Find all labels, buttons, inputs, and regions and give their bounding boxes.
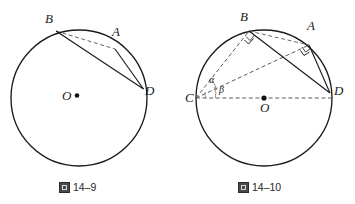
point-label-D-fig10: D bbox=[334, 84, 343, 97]
figure-14-9-group bbox=[11, 30, 147, 166]
point-label-C-fig10: C bbox=[185, 91, 194, 104]
caption-fig9: 14–9 bbox=[59, 182, 96, 193]
chord-AD-fig9 bbox=[115, 49, 144, 89]
center-dot-fig9 bbox=[75, 93, 80, 98]
right-angle-mark-B-inner-fig10 bbox=[246, 35, 255, 41]
angle-label-alpha-fig10: α bbox=[209, 75, 214, 85]
point-label-B-fig10: B bbox=[240, 10, 248, 23]
caption-text-fig10: 14–10 bbox=[252, 182, 281, 193]
chord-AD-fig10 bbox=[309, 45, 330, 93]
caption-fig10: 14–10 bbox=[238, 182, 281, 193]
circle-outline-fig9 bbox=[11, 30, 147, 166]
point-label-A-fig9: A bbox=[112, 25, 120, 38]
center-label-O-fig9: O bbox=[62, 89, 71, 102]
cjk-glyph-box-fig9 bbox=[59, 182, 70, 193]
point-label-B-fig9: B bbox=[45, 12, 53, 25]
cjk-glyph-box-fig10 bbox=[238, 182, 249, 193]
angle-label-beta-fig10: β bbox=[219, 85, 224, 95]
geometry-canvas bbox=[0, 0, 355, 204]
center-label-O-fig10: O bbox=[260, 101, 269, 114]
caption-text-fig9: 14–9 bbox=[73, 182, 96, 193]
point-label-A-fig10: A bbox=[307, 19, 315, 32]
figure-stage: B A D O 14–9 B A C D O α β 14–10 bbox=[0, 0, 355, 204]
chord-BD-fig9 bbox=[56, 31, 144, 89]
chord-BA-fig9 bbox=[56, 31, 115, 49]
figure-14-10-group bbox=[196, 30, 332, 166]
angle-arc-c-outer-fig10 bbox=[205, 92, 206, 98]
point-label-D-fig9: D bbox=[145, 84, 154, 97]
